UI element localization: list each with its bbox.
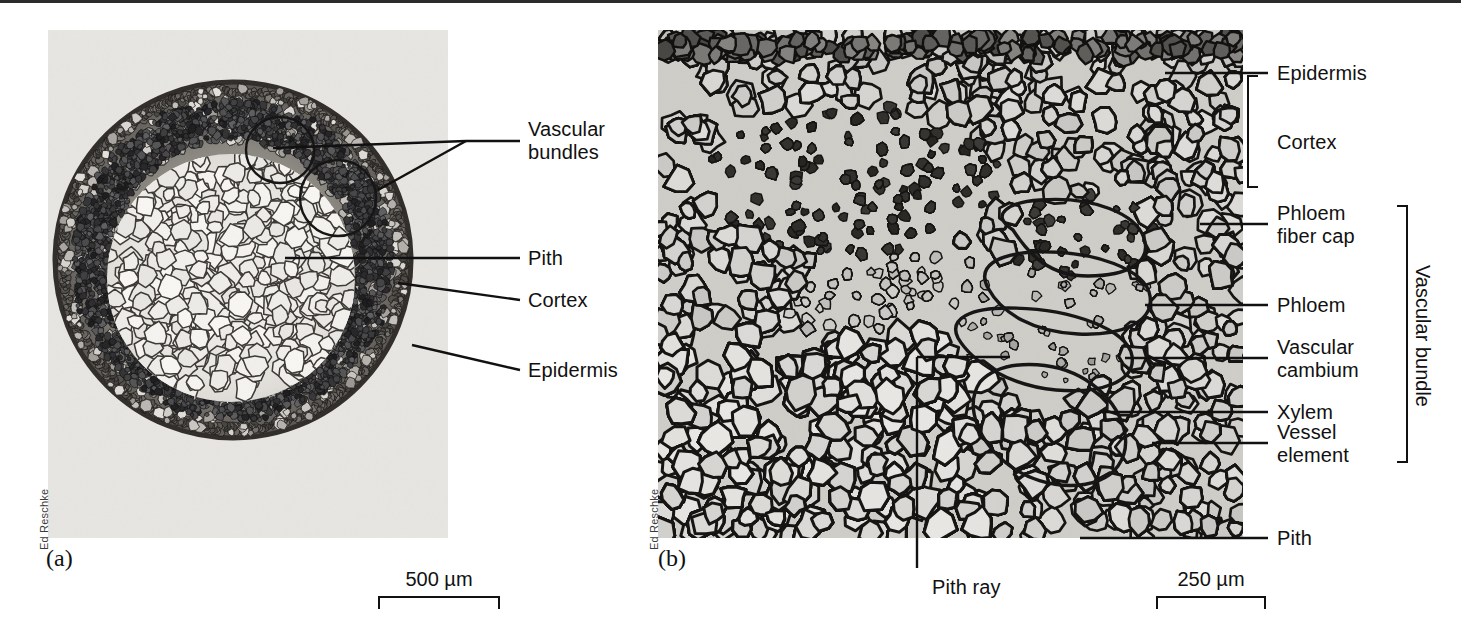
cortex-bracket-arm-bottom [1247,186,1258,188]
panel-b-micrograph-container [658,30,1243,538]
label-pith-b: Pith [1277,527,1312,550]
label-pith-ray: Pith ray [932,576,1001,599]
vascular-bundle-bracket-arm-bottom [1397,461,1408,463]
panel-a-micrograph [48,30,448,538]
scale-bar-b-line [1156,596,1266,598]
label-phloem: Phloem [1277,294,1345,317]
label-vascular-cambium: Vascular cambium [1277,336,1359,382]
figure-root: Vascular bundles Pith Cortex Epidermis E… [0,0,1461,640]
scale-bar-a-tick-right [498,596,500,609]
label-vascular-bundles: Vascular bundles [528,118,605,164]
vascular-bundle-bracket-spine [1406,205,1408,463]
label-cortex-b: Cortex [1277,131,1337,154]
vascular-bundle-bracket [1395,205,1408,463]
photo-credit-a: Ed Reschke [38,489,50,550]
panel-b-micrograph [658,30,1243,538]
panel-b-letter: (b) [658,545,686,572]
scale-bar-b-tick-right [1264,596,1266,609]
label-epidermis-b: Epidermis [1277,62,1367,85]
label-pith-a: Pith [528,247,563,270]
vascular-bundle-bracket-arm-top [1397,205,1408,207]
top-rule [0,0,1461,3]
scale-bar-b-tick-left [1156,596,1158,609]
scale-bar-b-label: 250 µm [1156,568,1266,591]
label-cortex-a: Cortex [528,289,588,312]
panel-a-micrograph-container [48,30,448,538]
scale-bar-a-label: 500 µm [378,568,500,591]
label-epidermis-a: Epidermis [528,359,618,382]
scale-bar-a-tick-left [378,596,380,609]
photo-credit-b: Ed Reschke [648,489,660,550]
scale-bar-a-line [378,596,500,598]
label-vascular-bundle-bracket: Vascular bundle [1411,265,1434,407]
cortex-bracket-arm-top [1247,75,1258,77]
cortex-bracket-spine [1247,75,1249,188]
panel-a-letter: (a) [46,545,73,572]
label-vessel-element: Vessel element [1277,421,1349,467]
cortex-bracket [1247,75,1260,188]
label-phloem-fiber-cap: Phloem fiber cap [1277,202,1355,248]
